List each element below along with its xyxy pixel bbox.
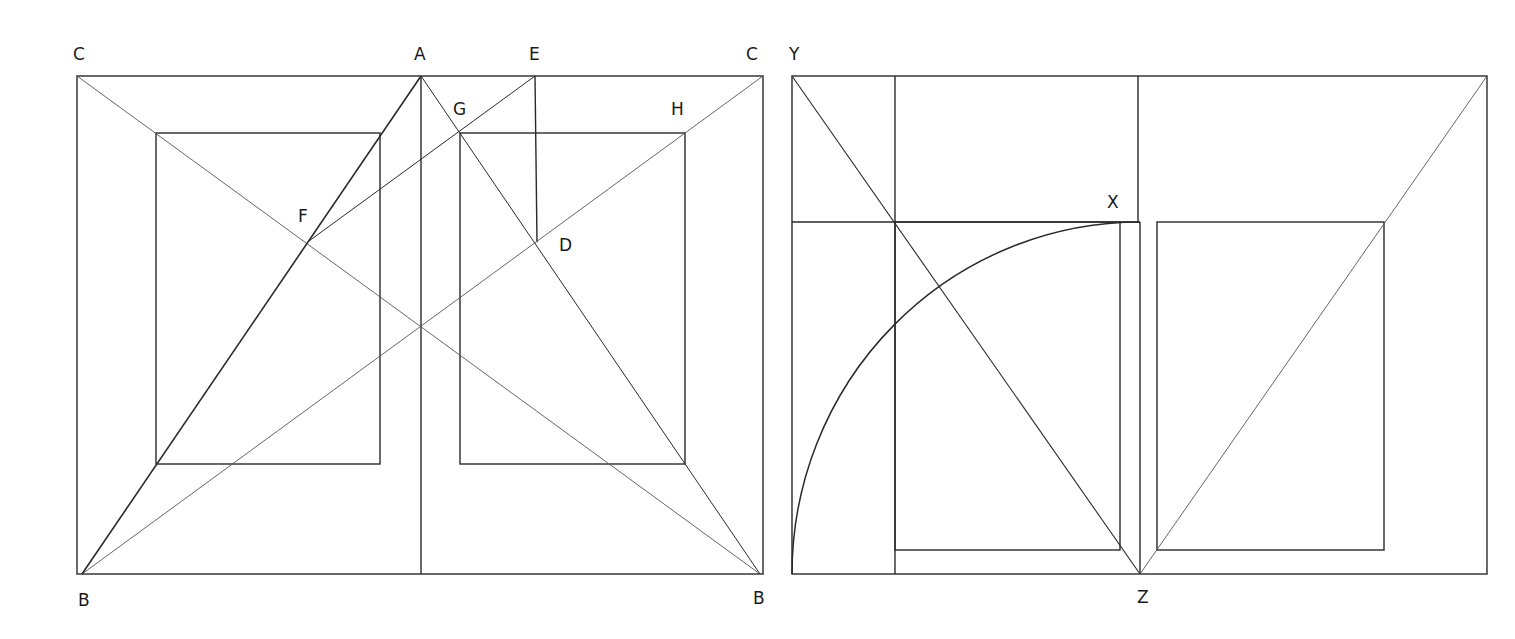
label-B-right: B — [753, 590, 765, 607]
label-C-right: C — [746, 46, 758, 63]
label-Z: Z — [1137, 589, 1149, 606]
line-E-D — [535, 76, 537, 242]
label-A: A — [414, 46, 426, 63]
label-B-left: B — [78, 592, 90, 609]
label-E: E — [529, 46, 540, 63]
diagonal-B-C — [82, 76, 763, 574]
line-F-E — [309, 76, 535, 241]
label-D: D — [559, 237, 572, 254]
label-C-left: C — [73, 46, 85, 63]
arc-X — [792, 222, 1140, 574]
diagonal-Z-corner — [1140, 76, 1487, 574]
diagonal-C-B — [77, 76, 760, 574]
left-diagram — [77, 76, 763, 574]
diagonal-Y-Z — [792, 76, 1140, 574]
right-diagram — [792, 76, 1487, 574]
label-F: F — [298, 208, 308, 225]
label-X: X — [1107, 194, 1119, 211]
line-A-B — [421, 76, 760, 574]
left-page-text-block — [156, 133, 380, 464]
line-B-A — [82, 76, 421, 574]
label-H: H — [671, 101, 684, 118]
label-G: G — [453, 101, 466, 118]
construction-diagram — [0, 0, 1515, 639]
label-Y: Y — [789, 46, 799, 63]
